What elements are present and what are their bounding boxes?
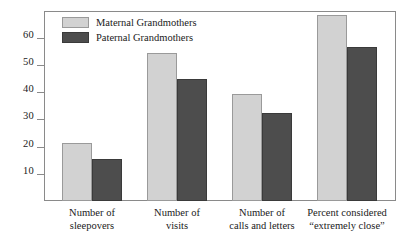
y-axis-tick-label: 30 xyxy=(23,111,34,121)
x-axis-category-line1: Percent considered xyxy=(287,206,405,219)
y-axis-tick-mark xyxy=(37,38,44,39)
bar-paternal-1 xyxy=(177,79,207,201)
x-axis-category-3: Percent considered“extremely close” xyxy=(287,206,405,232)
y-axis-tick-label: 60 xyxy=(23,30,34,40)
legend-item-label: Maternal Grandmothers xyxy=(96,17,197,28)
y-axis-tick-label: 50 xyxy=(23,57,34,67)
y-axis-tick-label: 20 xyxy=(23,139,34,149)
bar-chart: 605040302010 Maternal GrandmothersPatern… xyxy=(0,0,405,246)
legend-item-label: Paternal Grandmothers xyxy=(96,32,193,43)
y-axis-tick-mark xyxy=(37,119,44,120)
y-axis-tick-label: 40 xyxy=(23,84,34,94)
bar-paternal-0 xyxy=(92,159,122,201)
bar-maternal-3 xyxy=(317,15,347,201)
legend-item-paternal: Paternal Grandmothers xyxy=(62,31,197,44)
y-axis-tick-label: 10 xyxy=(23,166,34,176)
legend-item-maternal: Maternal Grandmothers xyxy=(62,16,197,29)
y-axis-tick-mark xyxy=(37,174,44,175)
bar-maternal-2 xyxy=(232,94,262,201)
bar-paternal-3 xyxy=(347,47,377,201)
y-axis-tick-mark xyxy=(37,147,44,148)
chart-legend: Maternal GrandmothersPaternal Grandmothe… xyxy=(62,16,197,44)
x-axis-category-line2: “extremely close” xyxy=(287,219,405,232)
maternal-swatch xyxy=(62,17,89,28)
bar-maternal-1 xyxy=(147,53,177,201)
x-axis-category-labels: Number ofsleepoversNumber ofvisitsNumber… xyxy=(44,206,396,246)
bar-paternal-2 xyxy=(262,113,292,201)
y-axis-tick-mark xyxy=(37,92,44,93)
bar-maternal-0 xyxy=(62,143,92,201)
y-axis-tick-mark xyxy=(37,65,44,66)
paternal-swatch xyxy=(62,32,89,43)
